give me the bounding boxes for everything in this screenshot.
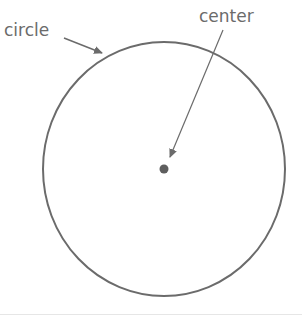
bottom-divider [0,314,302,315]
center-pointer-arrow [170,30,223,157]
diagram-canvas [0,0,302,318]
circle-label: circle [4,22,49,39]
circle-pointer-arrow [64,38,102,53]
center-label: center [199,8,254,25]
center-point [160,165,169,174]
